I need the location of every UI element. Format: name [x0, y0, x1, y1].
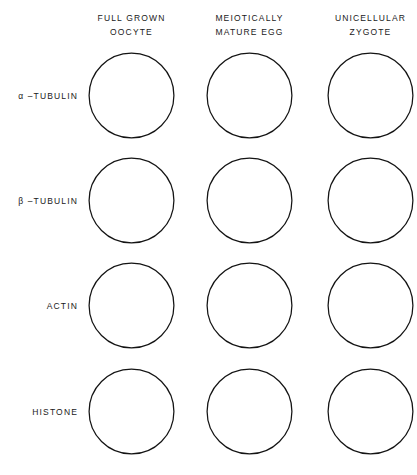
cell-membrane	[328, 369, 413, 454]
cell-membrane	[328, 263, 413, 348]
cell-histone-full-grown-oocyte	[88, 368, 175, 455]
cell-alpha-tubulin-unicellular-zygote	[327, 52, 414, 139]
cell-histone-unicellular-zygote	[327, 368, 414, 455]
cell-actin-unicellular-zygote	[327, 262, 414, 349]
cell-membrane	[207, 53, 292, 138]
column-header-unicellular-zygote: UNICELLULARZYGOTE	[297, 12, 417, 39]
cell-alpha-tubulin-full-grown-oocyte	[88, 52, 175, 139]
cell-membrane	[328, 53, 413, 138]
row-label-beta-tubulin: β –TUBULIN	[0, 196, 78, 206]
row-label-histone: HISTONE	[0, 407, 78, 417]
cell-membrane	[89, 369, 174, 454]
cell-beta-tubulin-meiotically-mature-egg	[206, 157, 293, 244]
column-header-line-1: UNICELLULAR	[297, 12, 417, 26]
cell-membrane	[328, 158, 413, 243]
row-label-actin: ACTIN	[0, 301, 78, 311]
cell-actin-full-grown-oocyte	[88, 262, 175, 349]
cell-membrane	[89, 263, 174, 348]
cell-membrane	[89, 158, 174, 243]
cell-beta-tubulin-unicellular-zygote	[327, 157, 414, 244]
protein-localization-figure: FULL GROWNOOCYTEMEIOTICALLYMATURE EGGUNI…	[0, 0, 417, 475]
cell-actin-meiotically-mature-egg	[206, 262, 293, 349]
cell-alpha-tubulin-meiotically-mature-egg	[206, 52, 293, 139]
cell-membrane	[89, 53, 174, 138]
row-label-alpha-tubulin: α –TUBULIN	[0, 91, 78, 101]
cell-histone-meiotically-mature-egg	[206, 368, 293, 455]
cell-membrane	[207, 263, 292, 348]
cell-membrane	[207, 369, 292, 454]
cell-membrane	[207, 158, 292, 243]
cell-beta-tubulin-full-grown-oocyte	[88, 157, 175, 244]
column-header-line-2: ZYGOTE	[297, 26, 417, 40]
